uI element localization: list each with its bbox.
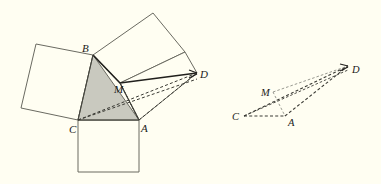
geometry-figure: B C A M D C M A D [0, 0, 381, 184]
label-c-left: C [69, 123, 77, 135]
label-a-right: A [287, 117, 295, 128]
label-a-left: A [140, 122, 148, 134]
label-c-right: C [232, 111, 240, 122]
label-d-right: D [351, 64, 360, 75]
label-m-right: M [260, 87, 271, 98]
square-on-ca [78, 120, 139, 172]
label-m-left: M [113, 83, 124, 95]
geometry-canvas: B C A M D C M A D [0, 0, 381, 184]
label-b-left: B [82, 42, 89, 54]
label-d-left: D [199, 68, 208, 80]
